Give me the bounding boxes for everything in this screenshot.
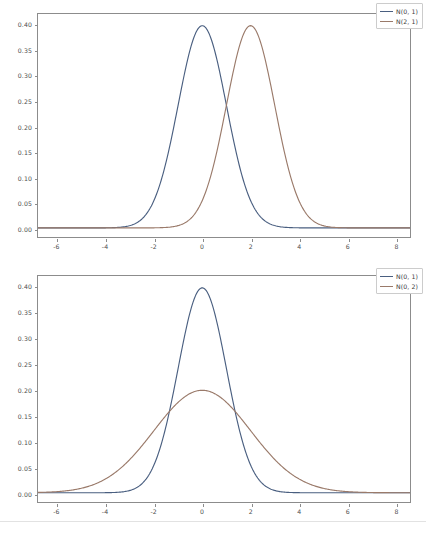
x-tick-label: -2 — [150, 243, 156, 250]
legend-item[interactable]: N(0, 2) — [380, 282, 418, 290]
y-tick-label: 0.05 — [18, 464, 32, 471]
y-tick-label: 0.15 — [18, 149, 32, 156]
curve-series-0 — [38, 26, 410, 228]
x-tick-label: 4 — [297, 243, 301, 250]
x-tick-label: 2 — [249, 508, 253, 515]
x-tick-label: 8 — [394, 243, 398, 250]
legend-item[interactable]: N(0, 1) — [380, 7, 418, 15]
y-tick-label: 0.30 — [18, 72, 32, 79]
curve-series-0 — [38, 288, 410, 493]
figure-bottom-normal-sigmas: 0.000.050.100.150.200.250.300.350.40 -6-… — [0, 265, 426, 520]
x-axis-tick-labels-bottom: -6-4-202468 — [37, 508, 411, 520]
x-tick-mark — [203, 504, 204, 507]
x-tick-mark — [57, 504, 58, 507]
x-tick-label: -4 — [102, 508, 108, 515]
x-tick-label: -4 — [102, 243, 108, 250]
curves-top — [38, 14, 410, 237]
y-tick-label: 0.25 — [18, 97, 32, 104]
x-tick-mark — [397, 239, 398, 242]
y-tick-label: 0.25 — [18, 361, 32, 368]
x-tick-mark — [106, 504, 107, 507]
y-tick-label: 0.00 — [18, 225, 32, 232]
x-axis-tick-labels-top: -6-4-202468 — [37, 243, 411, 255]
x-tick-mark — [252, 239, 253, 242]
legend-line-icon — [380, 11, 393, 12]
y-tick-label: 0.30 — [18, 335, 32, 342]
x-tick-label: 8 — [394, 508, 398, 515]
x-tick-label: 6 — [346, 243, 350, 250]
x-tick-label: 6 — [346, 508, 350, 515]
x-tick-label: 0 — [200, 508, 204, 515]
x-tick-mark — [155, 239, 156, 242]
legend-bottom[interactable]: N(0, 1)N(0, 2) — [376, 268, 423, 294]
y-axis-tick-labels-bottom: 0.000.050.100.150.200.250.300.350.40 — [2, 275, 32, 503]
y-tick-label: 0.10 — [18, 438, 32, 445]
legend-line-icon — [380, 21, 393, 22]
y-axis-tick-labels-top: 0.000.050.100.150.200.250.300.350.40 — [2, 13, 32, 238]
legend-item-label: N(0, 1) — [396, 273, 418, 280]
y-tick-label: 0.40 — [18, 283, 32, 290]
y-tick-label: 0.10 — [18, 174, 32, 181]
x-tick-label: -2 — [150, 508, 156, 515]
legend-item-label: N(2, 1) — [396, 18, 418, 25]
legend-item-label: N(0, 1) — [396, 8, 418, 15]
curve-series-1 — [38, 390, 410, 492]
x-tick-mark — [300, 239, 301, 242]
legend-item[interactable]: N(0, 1) — [380, 272, 418, 280]
legend-top[interactable]: N(0, 1)N(2, 1) — [376, 3, 423, 29]
x-tick-label: -6 — [53, 243, 59, 250]
x-tick-mark — [155, 504, 156, 507]
plot-area-bottom — [37, 275, 411, 503]
legend-line-icon — [380, 286, 393, 287]
y-tick-label: 0.35 — [18, 309, 32, 316]
x-tick-mark — [106, 239, 107, 242]
y-tick-label: 0.40 — [18, 21, 32, 28]
x-tick-mark — [300, 504, 301, 507]
legend-line-icon — [380, 276, 393, 277]
x-tick-mark — [349, 239, 350, 242]
x-tick-label: 4 — [297, 508, 301, 515]
x-tick-mark — [349, 504, 350, 507]
y-tick-label: 0.05 — [18, 200, 32, 207]
plot-area-top — [37, 13, 411, 238]
x-tick-label: 0 — [200, 243, 204, 250]
page-footer-space — [0, 522, 426, 542]
y-tick-label: 0.20 — [18, 387, 32, 394]
y-tick-label: 0.35 — [18, 46, 32, 53]
x-tick-mark — [57, 239, 58, 242]
legend-item[interactable]: N(2, 1) — [380, 17, 418, 25]
x-tick-label: 2 — [249, 243, 253, 250]
x-tick-label: -6 — [53, 508, 59, 515]
legend-item-label: N(0, 2) — [396, 283, 418, 290]
x-tick-mark — [252, 504, 253, 507]
curve-series-1 — [38, 26, 410, 228]
x-tick-mark — [203, 239, 204, 242]
y-tick-label: 0.15 — [18, 412, 32, 419]
x-tick-mark — [397, 504, 398, 507]
y-tick-label: 0.00 — [18, 490, 32, 497]
figure-top-normal-means: 0.000.050.100.150.200.250.300.350.40 -6-… — [0, 0, 426, 262]
curves-bottom — [38, 276, 410, 502]
y-tick-label: 0.20 — [18, 123, 32, 130]
